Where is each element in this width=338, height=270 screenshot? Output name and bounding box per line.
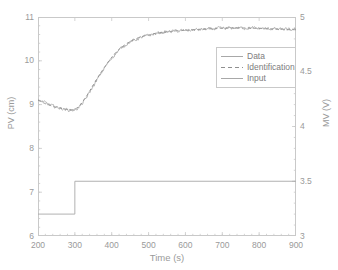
y-left-tick-label: 6	[8, 232, 34, 241]
legend-label-identification: Identification	[247, 63, 295, 72]
x-tick-label: 800	[244, 241, 274, 250]
y-right-tick-label: 4.5	[300, 67, 328, 76]
legend-item-data: Data	[217, 51, 295, 62]
y-right-tick-label: 3	[300, 232, 328, 241]
figure-container: 6789101133.544.5520030040050060070080090…	[0, 0, 338, 270]
x-tick-label: 600	[170, 241, 200, 250]
legend-line-dashed-icon	[220, 63, 244, 72]
legend-label-data: Data	[247, 52, 265, 61]
y-left-tick-label: 7	[8, 188, 34, 197]
x-tick-label: 200	[23, 241, 53, 250]
legend-item-identification: Identification	[217, 62, 295, 73]
legend-line-solid-input-icon	[220, 74, 244, 83]
x-tick-label: 400	[97, 241, 127, 250]
x-tick-label: 300	[60, 241, 90, 250]
legend-box[interactable]: Data Identification Input	[216, 47, 296, 88]
x-tick-label: 500	[134, 241, 164, 250]
y-right-tick-label: 3.5	[300, 177, 328, 186]
y-right-tick-label: 5	[300, 13, 328, 22]
y-left-tick-label: 11	[8, 13, 34, 22]
series-input	[38, 181, 296, 214]
x-tick-label: 900	[281, 241, 311, 250]
y-left-tick-label: 8	[8, 144, 34, 153]
y-axis-right-label: MV (V)	[321, 83, 331, 143]
x-tick-label: 700	[207, 241, 237, 250]
x-axis-label: Time (s)	[38, 252, 296, 263]
legend-line-solid-icon	[220, 52, 244, 61]
legend-label-input: Input	[247, 74, 266, 83]
legend-item-input: Input	[217, 73, 295, 84]
y-axis-left-label: PV (cm)	[6, 83, 16, 143]
y-left-tick-label: 10	[8, 56, 34, 65]
